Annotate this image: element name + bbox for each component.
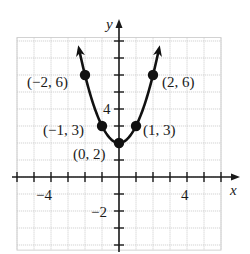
y-axis-label: y (104, 16, 113, 32)
x-tick-label-4: 4 (181, 187, 189, 203)
tick-labels: −4 4 4 −2 (36, 101, 189, 220)
data-point (80, 70, 90, 80)
point-label-0-2: (0, 2) (73, 146, 106, 163)
data-point (148, 70, 158, 80)
data-point (114, 138, 124, 148)
point-label-1-3: (1, 3) (143, 122, 176, 139)
point-labels: (−2, 6) (−1, 3) (0, 2) (1, 3) (2, 6) (27, 74, 195, 163)
x-axis-arrow-icon (231, 174, 240, 181)
data-point (97, 121, 107, 131)
data-point (131, 121, 141, 131)
y-tick-label-neg2: −2 (91, 204, 107, 220)
x-tick-label-neg4: −4 (36, 187, 52, 203)
x-axis-label: x (229, 182, 237, 198)
point-label-neg2-6: (−2, 6) (27, 74, 68, 91)
y-tick-label-4: 4 (103, 101, 111, 117)
point-label-neg1-3: (−1, 3) (43, 122, 84, 139)
parabola-graph: x y −4 4 4 −2 (−2, 6) (−1, 3) (0, 2) (1,… (0, 0, 250, 254)
y-axis-arrow-icon (116, 19, 123, 28)
point-label-2-6: (2, 6) (162, 74, 195, 91)
